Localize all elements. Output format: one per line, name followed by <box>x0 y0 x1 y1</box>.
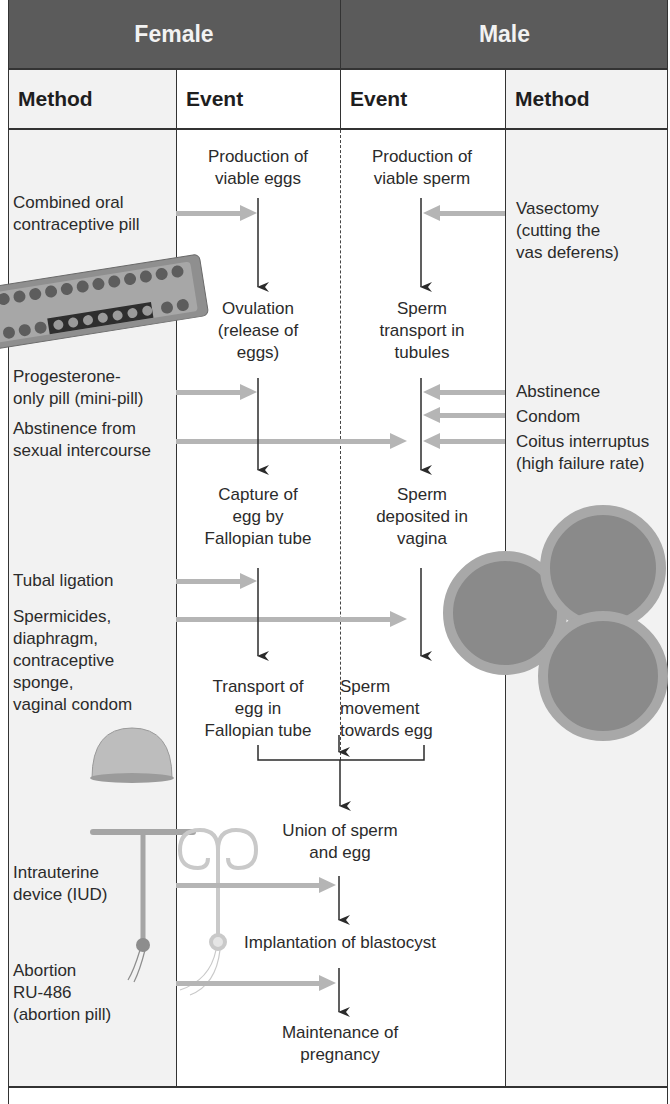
diaphragm-image <box>90 728 174 783</box>
event-sperm-deposited: Spermdeposited invagina <box>344 484 500 550</box>
event-sperm-movement: Spermmovementtowards egg <box>340 676 500 742</box>
method-condom: Condom <box>516 406 580 428</box>
event-sperm-transport: Spermtransport intubules <box>344 298 500 364</box>
event-union: Union of spermand egg <box>220 820 460 864</box>
event-implantation: Implantation of blastocyst <box>200 932 480 954</box>
method-abortion: AbortionRU-486(abortion pill) <box>13 960 111 1026</box>
method-abstinence-female: Abstinence fromsexual intercourse <box>13 418 151 462</box>
method-abstinence-male: Abstinence <box>516 381 600 403</box>
pill-pack-image <box>0 254 209 350</box>
event-capture-egg: Capture ofegg byFallopian tube <box>180 484 336 550</box>
method-barrier: Spermicides,diaphragm,contraceptivespong… <box>13 606 132 716</box>
event-production-eggs: Production ofviable eggs <box>180 146 336 190</box>
method-combined-pill: Combined oralcontraceptive pill <box>13 192 140 236</box>
event-transport-egg: Transport ofegg inFallopian tube <box>180 676 336 742</box>
event-production-sperm: Production ofviable sperm <box>344 146 500 190</box>
method-iud: Intrauterinedevice (IUD) <box>13 862 107 906</box>
method-vasectomy: Vasectomy(cutting thevas deferens) <box>516 198 619 264</box>
method-tubal-ligation: Tubal ligation <box>13 570 114 592</box>
event-ovulation: Ovulation(release ofeggs) <box>180 298 336 364</box>
event-maintenance: Maintenance ofpregnancy <box>220 1022 460 1066</box>
method-mini-pill: Progesterone-only pill (mini-pill) <box>13 366 143 410</box>
method-coitus-interruptus: Coitus interruptus(high failure rate) <box>516 431 649 475</box>
